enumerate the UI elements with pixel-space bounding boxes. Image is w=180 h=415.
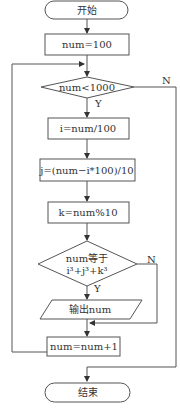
start-label: 开始 [77,4,97,16]
yes-label: Y [93,283,101,294]
step-j-process: j=(num−i*100)/10 [39,159,135,181]
output-label: 输出num [69,303,112,315]
loop-condition-label: num<1000 [59,82,115,93]
yes-label: Y [94,98,102,109]
check-label-line2: i³+j³+k³ [66,265,107,276]
init-process: num=100 [45,34,129,55]
no-label: N [147,254,156,265]
step-k-label: k=num%10 [58,207,117,218]
check-label-line1: num等于 [66,252,108,264]
increment-process: num=num+1 [47,337,120,356]
step-i-label: i=num/100 [60,123,116,134]
loop-condition-decision: num<1000 [41,77,134,98]
no-label: N [162,75,171,86]
output-io: 输出num [40,300,142,319]
end-label: 结束 [78,386,98,398]
step-j-label: j=(num−i*100)/10 [39,165,133,176]
init-label: num=100 [62,39,112,50]
end-terminal: 结束 [45,383,130,402]
start-terminal: 开始 [45,1,128,19]
armstrong-check-decision: num等于 i³+j³+k³ [38,241,137,286]
step-k-process: k=num%10 [48,202,129,223]
step-i-process: i=num/100 [48,118,129,139]
increment-label: num=num+1 [50,341,118,352]
flowchart: 开始 num=100 num<1000 Y N i=num/100 j=(num… [0,0,180,415]
